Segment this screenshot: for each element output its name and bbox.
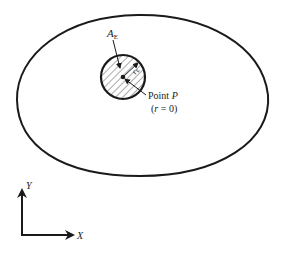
diagram-canvas: AE rE Point P (r = 0) Y X bbox=[0, 0, 282, 254]
x-axis-label: X bbox=[76, 230, 84, 241]
point-p-label: Point P bbox=[148, 90, 178, 101]
outer-boundary bbox=[17, 15, 268, 176]
point-p-condition: (r = 0) bbox=[151, 103, 177, 115]
y-axis-label: Y bbox=[26, 180, 33, 191]
area-label: AE bbox=[106, 27, 118, 41]
